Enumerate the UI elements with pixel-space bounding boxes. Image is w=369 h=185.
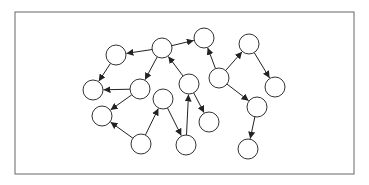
edge-J-to-H (208, 48, 216, 69)
edge-M-to-P (250, 117, 255, 139)
edge-J-to-M (227, 84, 249, 101)
nodes-layer (83, 28, 285, 159)
node-G (131, 134, 151, 154)
node-I (179, 74, 199, 94)
edge-A-to-C (99, 63, 111, 81)
edge-K-to-L (254, 53, 269, 78)
node-P (238, 139, 258, 159)
node-J (209, 68, 229, 88)
node-D (130, 79, 150, 99)
edge-B-to-A (126, 50, 152, 54)
edge-G-to-F (145, 108, 158, 135)
node-M (247, 97, 267, 117)
edge-I-to-B (168, 56, 183, 76)
edge-F-to-O (167, 108, 181, 136)
graph-diagram (0, 0, 369, 185)
edge-D-to-E (111, 95, 132, 110)
edge-I-to-N (194, 93, 204, 113)
node-H (194, 28, 214, 48)
edge-O-to-I (186, 94, 188, 135)
node-F (153, 89, 173, 109)
edge-D-to-C (103, 89, 130, 90)
node-E (92, 106, 112, 126)
node-K (239, 34, 259, 54)
edge-G-to-E (111, 122, 133, 138)
node-O (176, 135, 196, 155)
node-B (152, 38, 172, 58)
edge-B-to-H (172, 40, 194, 45)
node-C (83, 80, 103, 100)
edge-B-to-D (145, 57, 157, 80)
node-A (106, 45, 126, 65)
edge-J-to-K (226, 52, 242, 71)
node-L (265, 77, 285, 97)
node-N (199, 112, 219, 132)
